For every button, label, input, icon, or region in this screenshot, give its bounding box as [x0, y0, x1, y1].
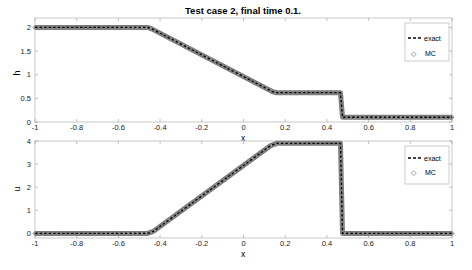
x-tick-label: 1: [450, 123, 454, 132]
exact-series: [35, 27, 452, 117]
x-tick-label: 0.6: [363, 123, 373, 132]
y-tick-label: 0.5: [21, 94, 31, 103]
x-tick-label: 0.8: [405, 239, 415, 248]
chart-title: Test case 2, final time 0.1.: [185, 5, 301, 16]
x-tick-label: 0.4: [322, 239, 332, 248]
x-tick-label: -0.4: [154, 123, 167, 132]
top-plot-area: [33, 25, 454, 119]
y-tick-label: 1: [27, 70, 31, 79]
x-tick-label: -0.2: [195, 239, 208, 248]
y-tick-label: 0: [27, 118, 31, 127]
bottom-plot-area: [33, 141, 454, 235]
y-tick-label: 2: [27, 23, 31, 32]
x-tick-label: -0.2: [195, 123, 208, 132]
top-y-label: h: [12, 70, 22, 75]
x-tick-label: -0.8: [70, 123, 83, 132]
x-tick-label: -0.6: [112, 239, 125, 248]
bottom-legend: exact ◇ MC: [405, 146, 449, 184]
bottom-y-label: u: [12, 186, 22, 191]
y-tick-label: 0: [27, 229, 31, 238]
bottom-x-label: x: [241, 249, 246, 259]
mc-series: [35, 143, 452, 233]
y-tick-label: 3: [27, 160, 31, 169]
bottom-axes: -1-0.8-0.6-0.4-0.200.20.40.60.81 01234 u…: [12, 137, 454, 260]
x-tick-label: 1: [450, 239, 454, 248]
x-tick-label: 0.4: [322, 123, 332, 132]
mc-series: [35, 27, 452, 117]
x-tick-label: 0: [241, 239, 245, 248]
x-tick-label: -0.6: [112, 123, 125, 132]
bottom-y-ticks: 01234: [27, 137, 452, 238]
exact-series: [35, 143, 452, 233]
x-tick-label: 0.2: [280, 123, 290, 132]
figure: Test case 2, final time 0.1. -1-0.8-0.6-…: [0, 0, 472, 270]
x-tick-label: -0.8: [70, 239, 83, 248]
x-tick-label: 0.8: [405, 123, 415, 132]
y-tick-label: 2: [27, 183, 31, 192]
top-legend-exact: exact: [424, 35, 441, 42]
y-tick-label: 1: [27, 206, 31, 215]
bottom-legend-mc: MC: [425, 169, 436, 176]
x-tick-label: -1: [32, 239, 39, 248]
x-tick-label: 0.2: [280, 239, 290, 248]
x-tick-label: -0.4: [154, 239, 167, 248]
x-tick-label: 0.6: [363, 239, 373, 248]
x-tick-label: -1: [32, 123, 39, 132]
x-tick-label: 0: [241, 123, 245, 132]
y-tick-label: 1.5: [21, 47, 31, 56]
top-axes: -1-0.8-0.6-0.4-0.200.20.40.60.81 00.511.…: [12, 18, 454, 143]
top-legend: exact ◇ MC: [405, 23, 449, 61]
y-tick-label: 4: [27, 137, 31, 146]
bottom-legend-exact: exact: [424, 155, 441, 162]
top-legend-mc: MC: [425, 50, 436, 57]
